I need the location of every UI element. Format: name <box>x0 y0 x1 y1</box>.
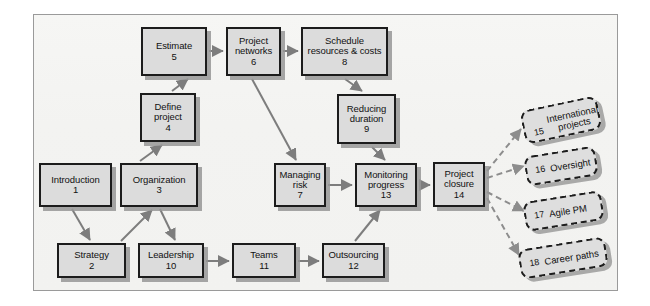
node-schedule-resources-costs-label: Scheduleresources & costs <box>308 36 382 57</box>
node-outsourcing[interactable]: Outsourcing 12 <box>322 243 385 278</box>
node-project-closure-label: Projectclosure <box>444 169 474 190</box>
node-define-project[interactable]: Defineproject 4 <box>140 93 196 142</box>
node-introduction-number: 1 <box>73 185 78 195</box>
node-organization[interactable]: Organization 3 <box>120 163 198 207</box>
node-project-closure-number: 14 <box>454 190 464 200</box>
node-define-project-label: Defineproject <box>154 102 182 123</box>
node-estimate[interactable]: Estimate 5 <box>141 27 207 76</box>
node-leadership[interactable]: Leadership 10 <box>138 243 204 278</box>
callout-international-projects-label: International projects <box>546 104 601 134</box>
node-estimate-label: Estimate <box>156 41 192 51</box>
node-reducing-duration-label: Reducingduration <box>347 104 386 125</box>
node-reducing-duration-number: 9 <box>364 124 369 134</box>
node-strategy[interactable]: Strategy 2 <box>57 243 126 278</box>
node-teams-label: Teams <box>250 250 277 260</box>
node-reducing-duration[interactable]: Reducingduration 9 <box>337 94 396 144</box>
node-managing-risk-number: 7 <box>297 190 302 200</box>
node-schedule-resources-costs[interactable]: Scheduleresources & costs 8 <box>301 27 388 76</box>
node-project-networks-number: 6 <box>251 57 256 67</box>
node-strategy-number: 2 <box>89 261 94 271</box>
callout-agile-pm-label: Agile PM <box>548 202 587 219</box>
node-organization-number: 3 <box>156 185 161 195</box>
node-outsourcing-number: 12 <box>348 261 358 271</box>
node-estimate-number: 5 <box>171 52 176 62</box>
callout-agile-pm-number: 17 <box>534 209 545 220</box>
callout-oversight-number: 16 <box>535 164 546 175</box>
node-monitoring-progress-number: 13 <box>381 190 391 200</box>
node-define-project-number: 4 <box>165 123 170 133</box>
node-project-closure[interactable]: Projectclosure 14 <box>433 162 485 207</box>
node-teams-number: 11 <box>259 261 269 271</box>
node-managing-risk-label: Managingrisk <box>280 170 321 191</box>
node-managing-risk[interactable]: Managingrisk 7 <box>274 163 326 207</box>
callout-career-paths-number: 18 <box>529 257 540 268</box>
node-outsourcing-label: Outsourcing <box>328 250 378 260</box>
diagram-canvas: Introduction 1 Strategy 2 Organization 3… <box>0 0 650 306</box>
node-leadership-label: Leadership <box>148 250 194 260</box>
callout-oversight-label: Oversight <box>549 156 591 173</box>
node-leadership-number: 10 <box>166 261 176 271</box>
node-strategy-label: Strategy <box>74 250 109 260</box>
node-teams[interactable]: Teams 11 <box>232 243 296 278</box>
node-project-networks-label: Projectnetworks <box>235 36 272 57</box>
node-monitoring-progress[interactable]: Monitoringprogress 13 <box>355 163 417 207</box>
callout-international-projects-number: 15 <box>533 126 545 138</box>
node-introduction[interactable]: Introduction 1 <box>39 163 112 207</box>
node-schedule-resources-costs-number: 8 <box>342 57 347 67</box>
node-monitoring-progress-label: Monitoringprogress <box>364 170 407 191</box>
node-project-networks[interactable]: Projectnetworks 6 <box>226 27 281 76</box>
callout-career-paths-label: Career paths <box>543 247 599 266</box>
